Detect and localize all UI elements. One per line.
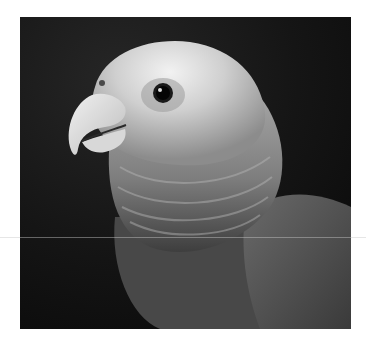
scan-line-artifact <box>0 237 366 238</box>
parrot-nostril <box>99 80 105 86</box>
parrot-photo <box>20 17 351 329</box>
parrot-illustration <box>20 17 351 329</box>
